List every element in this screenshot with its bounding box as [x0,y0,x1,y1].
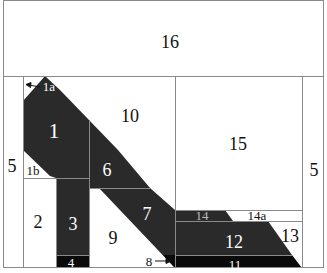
label-5-right: 5 [310,160,319,180]
label-8: 8 [146,254,153,269]
label-2: 2 [34,212,43,232]
label-16: 16 [161,32,179,52]
label-4: 4 [68,255,75,270]
label-14: 14 [196,208,210,223]
label-10: 10 [121,106,139,126]
label-9: 9 [109,228,118,248]
arrow-8 [155,259,171,264]
label-11: 11 [229,257,242,272]
label-5-left: 5 [8,156,17,176]
label-15: 15 [229,134,247,154]
label-1b: 1b [27,163,40,178]
diagram-canvas: 16 5 5 1 2 3 6 7 9 10 12 13 15 1a 1b 4 8… [0,0,327,273]
label-1: 1 [49,118,60,143]
piece-7 [89,188,175,268]
label-3: 3 [69,214,78,234]
label-7: 7 [143,204,152,224]
label-12: 12 [225,232,243,252]
label-1a: 1a [43,79,56,94]
label-14a: 14a [248,208,267,223]
label-6: 6 [103,160,112,180]
label-13: 13 [281,226,299,246]
